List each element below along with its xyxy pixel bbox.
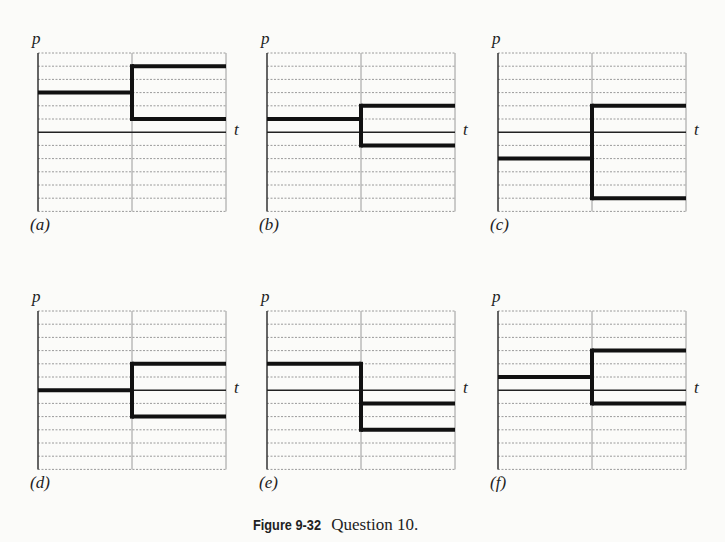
x-axis-label: t [463, 120, 468, 140]
chart-panel-f: pt(f) [498, 311, 708, 511]
step-plot [498, 53, 716, 221]
y-axis-label: p [32, 287, 41, 307]
caption-text: Question 10. [331, 515, 418, 534]
panel-label: (a) [30, 215, 50, 235]
x-axis-label: t [694, 120, 699, 140]
y-axis-label: p [261, 287, 270, 307]
step-plot [38, 53, 256, 221]
y-axis-label: p [492, 29, 501, 49]
figure-number: Figure 9-32 [253, 516, 321, 533]
panel-label: (e) [259, 473, 278, 493]
chart-panel-d: pt(d) [38, 311, 248, 511]
step-plot [498, 311, 716, 479]
panel-label: (b) [259, 215, 279, 235]
step-plot [267, 53, 485, 221]
figure-caption: Figure 9-32 Question 10. [253, 515, 418, 535]
chart-panel-c: pt(c) [498, 53, 708, 253]
y-axis-label: p [492, 287, 501, 307]
y-axis-label: p [32, 29, 41, 49]
chart-panel-b: pt(b) [267, 53, 477, 253]
step-plot [267, 311, 485, 479]
panel-label: (c) [490, 215, 509, 235]
x-axis-label: t [694, 378, 699, 398]
x-axis-label: t [234, 378, 239, 398]
panel-label: (d) [30, 473, 50, 493]
chart-panel-e: pt(e) [267, 311, 477, 511]
chart-panel-a: pt(a) [38, 53, 248, 253]
y-axis-label: p [261, 29, 270, 49]
panel-label: (f) [490, 473, 506, 493]
x-axis-label: t [234, 120, 239, 140]
step-plot [38, 311, 256, 479]
x-axis-label: t [463, 378, 468, 398]
